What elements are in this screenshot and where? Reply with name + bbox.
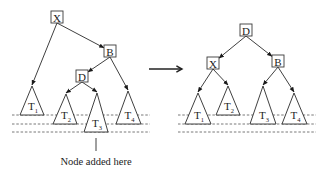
edge-b-to-t4 bbox=[278, 67, 294, 92]
subtree-t2: T2 bbox=[53, 94, 77, 124]
edge-x-to-t1 bbox=[198, 69, 213, 92]
edge-x-to-t2 bbox=[213, 69, 228, 85]
node-label: X bbox=[209, 58, 217, 70]
node-label: D bbox=[242, 25, 250, 37]
node-b: B bbox=[272, 55, 284, 68]
annotation-label: Node added here bbox=[60, 156, 131, 167]
node-d: D bbox=[240, 24, 252, 37]
edge-d-to-t2 bbox=[66, 82, 82, 93]
before-rotation-tree: T1T2T3T4XBD bbox=[12, 11, 150, 132]
subtree-t2: T2 bbox=[216, 86, 240, 115]
node-b: B bbox=[104, 45, 116, 58]
tree-rotation-diagram: T1T2T3T4XBD T1T2T3T4DXB Node added here bbox=[0, 0, 329, 174]
node-added-annotation: Node added here bbox=[60, 138, 131, 167]
node-x: X bbox=[51, 11, 63, 24]
edge-b-to-d bbox=[88, 57, 110, 72]
node-label: D bbox=[78, 71, 86, 83]
subtree-t1: T1 bbox=[185, 93, 211, 124]
edge-d-to-x bbox=[219, 36, 246, 58]
edge-b-to-t3 bbox=[263, 67, 278, 85]
edge-b-to-t4 bbox=[110, 57, 128, 90]
subtree-t3: T3 bbox=[250, 86, 276, 124]
subtree-t4: T4 bbox=[282, 93, 307, 124]
subtree-t3: T3 bbox=[84, 93, 108, 132]
edge-d-to-t3 bbox=[82, 82, 97, 92]
subtree-t1: T1 bbox=[20, 86, 44, 115]
node-label: B bbox=[274, 56, 281, 68]
node-label: X bbox=[53, 12, 61, 24]
edge-x-to-b bbox=[57, 23, 104, 48]
node-label: B bbox=[106, 46, 113, 58]
node-d: D bbox=[76, 70, 88, 83]
after-rotation-tree: T1T2T3T4DXB bbox=[178, 24, 316, 132]
edge-x-to-t1 bbox=[32, 23, 57, 85]
edge-d-to-b bbox=[246, 36, 272, 56]
node-x: X bbox=[207, 57, 219, 70]
subtree-t4: T4 bbox=[116, 91, 141, 124]
